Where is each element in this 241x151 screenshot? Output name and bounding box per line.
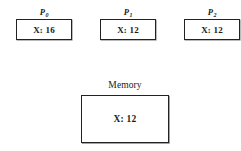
process-cache-box-p1: X: 12: [100, 19, 156, 40]
process-label-p0-subscript: 0: [45, 12, 48, 18]
process-cache-value-p2: X: 12: [201, 25, 223, 35]
memory-box: X: 12: [81, 95, 169, 143]
process-label-p0: P0: [16, 7, 72, 18]
process-cache-value-p1: X: 12: [117, 25, 139, 35]
process-label-p1: P1: [100, 7, 156, 18]
process-cache-box-p0: X: 16: [16, 19, 72, 40]
memory-label: Memory: [81, 79, 169, 91]
process-cache-box-p2: X: 12: [184, 19, 240, 40]
process-label-p2-subscript: 2: [213, 12, 216, 18]
memory-value: X: 12: [114, 114, 137, 124]
process-label-p2: P2: [184, 7, 240, 18]
process-label-p1-subscript: 1: [129, 12, 132, 18]
process-cache-value-p0: X: 16: [33, 25, 55, 35]
cache-coherence-figure: P0 X: 16 P1 X: 12 P2 X: 12 Memory X: 12: [0, 0, 241, 151]
